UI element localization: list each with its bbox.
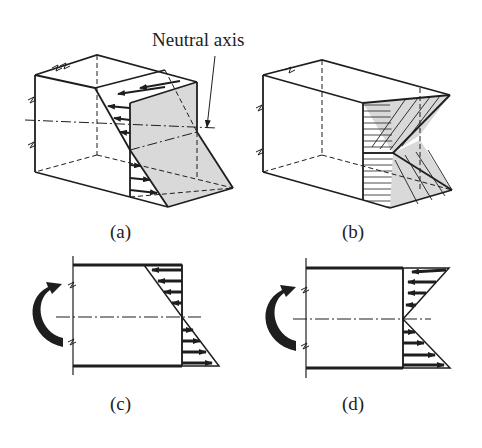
break-mark-icon: [68, 339, 76, 345]
bending-stress-diagram: Neutral axis (a): [0, 0, 482, 448]
panel-label-a: (a): [110, 221, 131, 243]
panel-c: (c): [33, 256, 219, 415]
compression-arrows-c: [152, 270, 182, 303]
front-hatch-region-lower: [363, 153, 393, 208]
panel-d: (d): [265, 258, 450, 415]
neutral-axis-label: Neutral axis: [152, 29, 244, 50]
panel-b: (b): [256, 60, 452, 243]
panel-a: Neutral axis (a): [25, 29, 244, 243]
tension-arrows-d: [403, 332, 444, 365]
panel-label-b: (b): [342, 221, 364, 243]
moment-arrow-icon: [33, 282, 63, 347]
break-mark-icon: [301, 287, 309, 293]
front-hatch-region: [363, 103, 393, 153]
break-mark-icon: [68, 282, 76, 288]
moment-arrow-icon: [265, 285, 296, 351]
panel-label-d: (d): [342, 393, 364, 415]
compression-arrows-d: [406, 270, 446, 305]
break-mark-icon: [301, 343, 309, 349]
panel-label-c: (c): [110, 393, 131, 415]
neutral-axis-pointer: [207, 56, 215, 127]
stress-plane-shaded: [130, 82, 233, 207]
tension-arrows-c: [182, 330, 212, 363]
